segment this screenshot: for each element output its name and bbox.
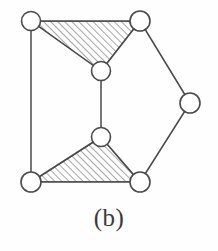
node-top-right[interactable] <box>130 11 150 31</box>
node-bottom-right[interactable] <box>130 172 150 192</box>
edge-right-to-bottom-right <box>140 103 190 182</box>
upper-hatched-triangle <box>31 21 140 71</box>
node-right[interactable] <box>180 93 200 113</box>
node-top-left[interactable] <box>22 12 41 31</box>
node-bottom-left[interactable] <box>21 172 41 192</box>
node-mid-upper[interactable] <box>92 62 111 81</box>
node-mid-lower[interactable] <box>92 128 111 147</box>
lower-hatched-triangle <box>31 137 140 182</box>
edge-top-right-to-right <box>140 21 190 103</box>
figure-caption: (b) <box>0 203 218 233</box>
shaded-faces-group <box>31 21 140 182</box>
figure-container: (b) <box>0 0 218 251</box>
